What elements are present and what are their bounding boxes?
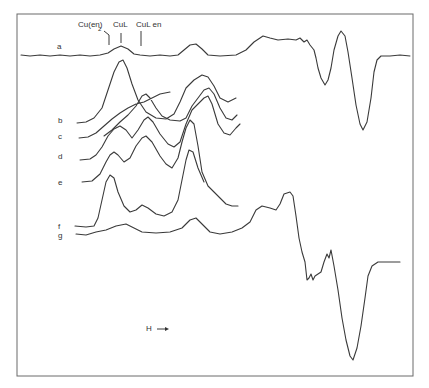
annotation-culen: CuL en (136, 20, 162, 29)
trace-label-b: b (58, 116, 63, 125)
annotation-cul: CuL (113, 20, 128, 29)
trace-f (75, 150, 204, 227)
trace-d (80, 96, 240, 160)
trace-label-g: g (58, 231, 62, 240)
marker-cuen2 (104, 31, 109, 45)
trace-e (82, 120, 238, 206)
figure-frame (17, 14, 413, 376)
trace-label-c: c (58, 132, 62, 141)
trace-g (76, 192, 400, 360)
trace-label-e: e (58, 178, 63, 187)
spectra-figure: Cu(en) 2 CuL CuL en a b c d e f g H (0, 0, 429, 388)
h-axis-label: H (146, 324, 152, 333)
trace-label-d: d (58, 152, 62, 161)
trace-label-f: f (58, 222, 61, 231)
trace-label-a: a (57, 42, 62, 51)
h-arrow-icon (165, 327, 169, 331)
